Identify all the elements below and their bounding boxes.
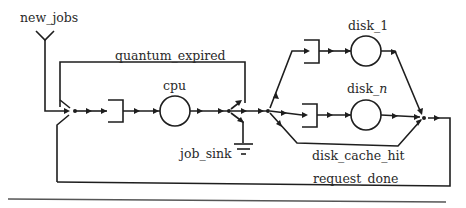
- label-cpu: cpu: [163, 78, 186, 93]
- cpu-server: [160, 96, 190, 126]
- edge-to-disk1: [270, 51, 305, 108]
- arrow-icon: [302, 112, 308, 118]
- arrow-icon: [197, 108, 203, 114]
- cpu-queue: [108, 100, 123, 122]
- label-disk-cache-hit: disk_cache_hit: [312, 148, 404, 163]
- arrow-icon: [86, 108, 92, 114]
- junction-dot: [227, 109, 231, 113]
- edge-quantum-loop: [60, 62, 245, 107]
- source-antenna-icon: [36, 31, 68, 111]
- arrow-icon: [328, 48, 334, 54]
- arrow-icon: [101, 108, 107, 114]
- label-disk-n: disk_n: [347, 81, 387, 96]
- label-job-sink: job_sink: [178, 146, 232, 161]
- arrow-icon: [281, 110, 287, 116]
- queueing-network-diagram: new_jobs quantum_expired request_done cp…: [0, 0, 466, 208]
- edge-disk-cache-hit: [270, 113, 421, 146]
- arrow-icon: [218, 108, 224, 114]
- arrow-icon: [434, 115, 440, 121]
- arrow-icon: [241, 108, 247, 114]
- arrow-icon: [304, 48, 310, 54]
- arrow-icon: [258, 108, 264, 114]
- arrow-icon: [273, 92, 279, 99]
- arrow-icon: [414, 114, 420, 120]
- label-disk-1: disk_1: [348, 18, 388, 33]
- edge-return-in: [57, 115, 69, 182]
- ground-sink-icon: [234, 144, 253, 154]
- arrow-icon: [345, 112, 351, 118]
- arrow-icon: [153, 108, 159, 114]
- arrow-icon: [64, 108, 70, 114]
- arrow-icon: [327, 112, 333, 118]
- label-new-jobs: new_jobs: [20, 10, 78, 25]
- label-request-done: request_done: [313, 171, 399, 186]
- page-divider: [8, 199, 446, 202]
- label-quantum-expired: quantum_expired: [115, 48, 226, 63]
- junction-dot: [422, 116, 426, 120]
- junction-dot: [266, 109, 270, 113]
- diskn-server: [351, 100, 381, 130]
- edge-quantum-in: [60, 100, 70, 108]
- arrow-icon: [417, 108, 423, 115]
- arrow-icon: [345, 48, 351, 54]
- arrow-icon: [134, 108, 140, 114]
- disk1-server: [351, 36, 381, 66]
- arrow-icon: [392, 113, 398, 119]
